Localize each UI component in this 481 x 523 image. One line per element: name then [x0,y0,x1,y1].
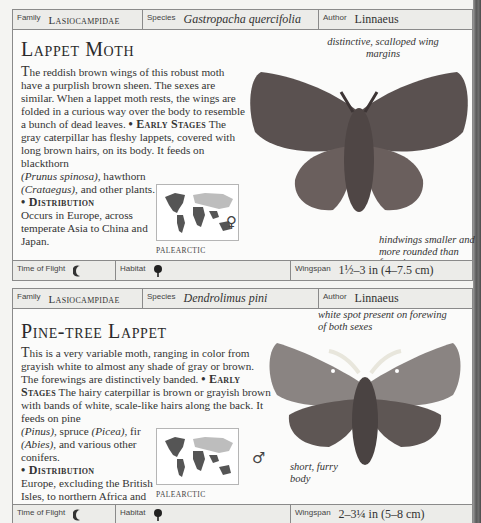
family-cell: Family Lasiocampidae [13,10,143,29]
plant-latin-name: (Crataegus) [21,183,75,195]
plant-latin-name: (Prunus spinosa) [21,170,98,182]
wingspan-cell: Wingspan 1½–3 in (4–7.5 cm) [291,261,472,280]
drop-cap: T [21,64,30,79]
taxonomy-bar: Family Lasiocampidae Species Dendrolimus… [13,289,472,309]
habitat-label: Habitat [120,264,145,273]
family-label: Family [17,292,41,301]
wingspan-value: 2–3¼ in (5–8 cm) [339,507,425,522]
tree-icon [153,509,163,521]
family-cell: Family Lasiocampidae [13,289,143,308]
time-of-flight-cell: Time of Flight [13,261,116,280]
wingspan-label: Wingspan [295,508,331,517]
habitat-cell: Habitat [116,261,291,280]
wingspan-label: Wingspan [295,264,331,273]
author-label: Author [323,13,347,22]
family-value: Lasiocampidae [49,14,120,26]
species-title: Pine-tree Lappet [21,320,167,343]
distribution-map [156,428,239,485]
habitat-label: Habitat [120,508,145,517]
facts-bar: Time of Flight Habitat Wingspan 2–3¼ in … [13,504,472,523]
species-cell: Species Gastropacha quercifolia [143,10,319,29]
plant-latin-name: (Pinus) [21,425,54,437]
pine-tree-lappet-photo [265,329,465,479]
distribution-text: Occurs in Europe, across temperate Asia … [21,209,148,247]
author-value: Linnaeus [355,291,399,306]
wingspan-value: 1½–3 in (4–7.5 cm) [339,263,434,278]
author-cell: Author Linnaeus [319,10,472,29]
habitat-cell: Habitat [116,505,291,523]
author-cell: Author Linnaeus [319,289,472,308]
time-of-flight-label: Time of Flight [17,508,65,517]
species-value: Gastropacha quercifolia [183,12,300,27]
world-map-icon [157,429,238,484]
species-title: Lappet Moth [21,38,134,61]
family-value: Lasiocampidae [49,293,120,305]
author-value: Linnaeus [355,12,399,27]
facts-bar: Time of Flight Habitat Wingspan 1½–3 in … [13,260,472,280]
plant-name: , spruce [54,425,92,437]
early-stages-plants: (Pinus), spruce (Picea), fir (Abies), an… [21,425,161,516]
distribution-heading: • Distribution [21,195,94,209]
moon-icon [73,265,83,277]
species-value: Dendrolimus pini [183,291,267,306]
species-card-lappet-moth: Family Lasiocampidae Species Gastropacha… [12,9,473,281]
male-symbol: ♂ [252,449,265,467]
wingspan-cell: Wingspan 2–3¼ in (5–8 cm) [291,505,472,523]
time-of-flight-label: Time of Flight [17,264,65,273]
plant-latin-name: (Picea) [92,425,125,437]
species-card-pine-tree-lappet: Family Lasiocampidae Species Dendrolimus… [12,288,473,523]
plant-name: , fir [124,425,140,437]
family-label: Family [17,13,41,22]
plant-name: , hawthorn [98,170,146,182]
species-cell: Species Dendrolimus pini [143,289,319,308]
lappet-moth-photo [241,50,477,240]
plant-latin-name: (Abies) [21,438,53,450]
tree-icon [153,265,163,277]
species-label: Species [147,292,175,301]
author-label: Author [323,292,347,301]
early-stages-heading: • Early Stages [128,117,206,131]
early-stages-plants: (Prunus spinosa), hawthorn (Crataegus), … [21,170,161,248]
time-of-flight-cell: Time of Flight [13,505,116,523]
drop-cap: T [21,345,30,360]
map-region-label: PALEARCTIC [156,490,206,499]
map-region-label: PALEARCTIC [156,246,206,255]
species-label: Species [147,13,175,22]
moon-icon [73,509,83,521]
plant-name: , and other plants. [75,183,155,195]
distribution-heading: • Distribution [21,463,94,477]
female-symbol: ♀ [226,213,237,231]
early-stages-text: The hairy caterpillar is brown or grayis… [21,386,271,424]
taxonomy-bar: Family Lasiocampidae Species Gastropacha… [13,10,472,30]
